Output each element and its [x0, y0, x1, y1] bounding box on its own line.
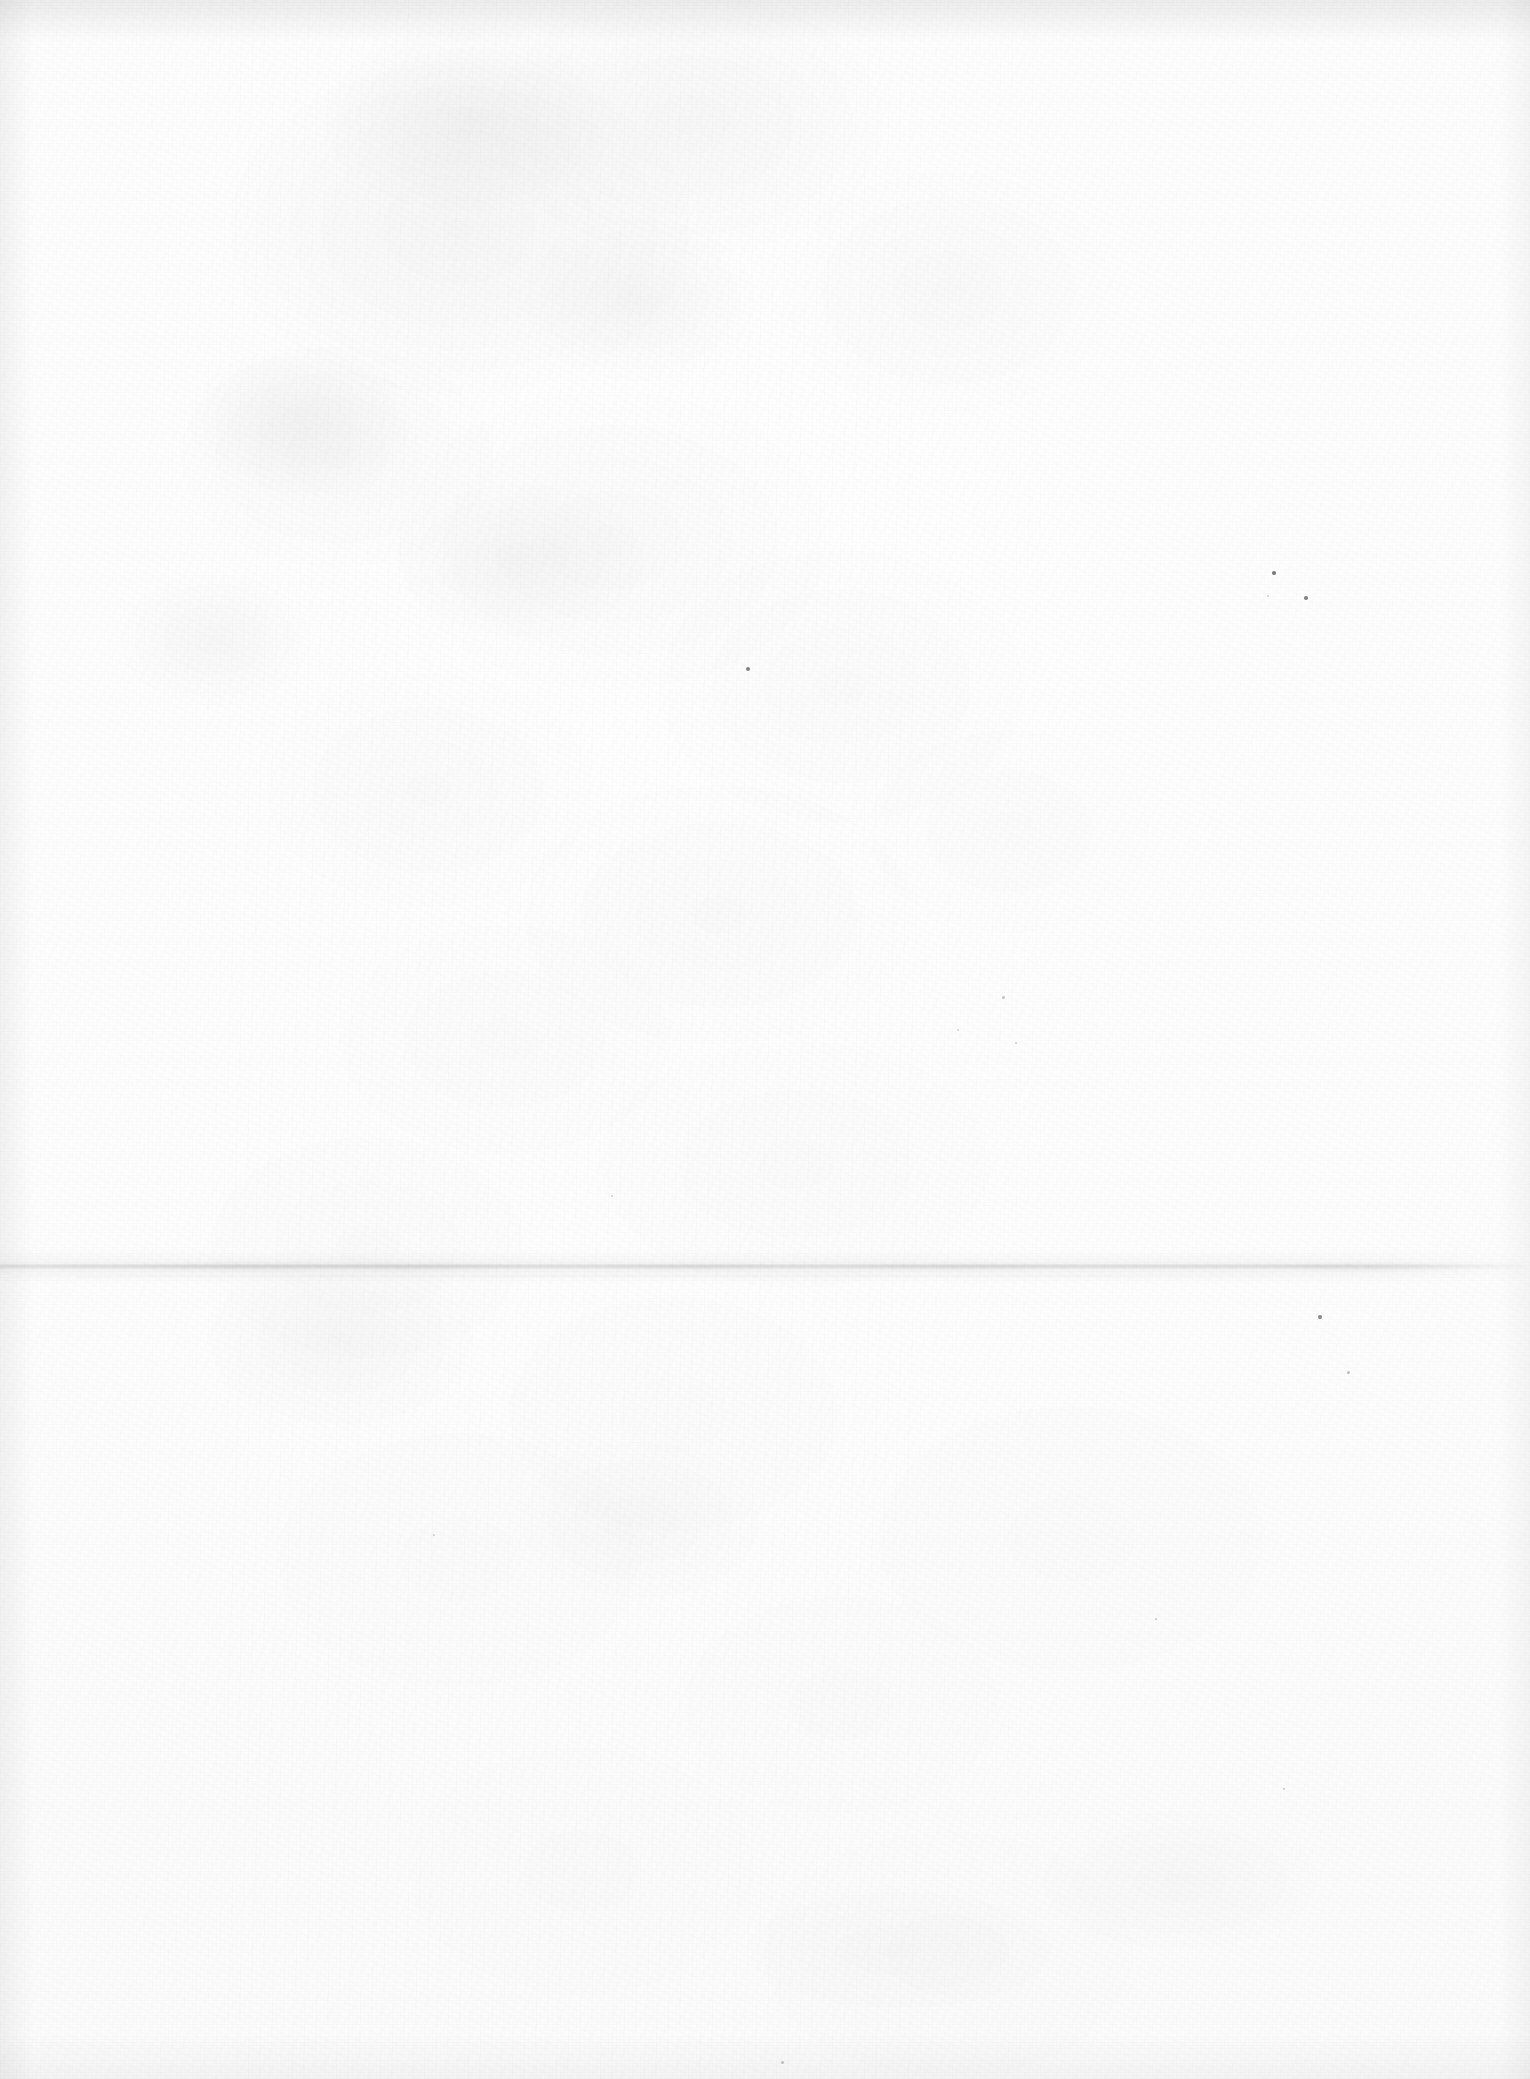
scanned-page: [0, 0, 1530, 2079]
paper-background: [0, 0, 1530, 2079]
